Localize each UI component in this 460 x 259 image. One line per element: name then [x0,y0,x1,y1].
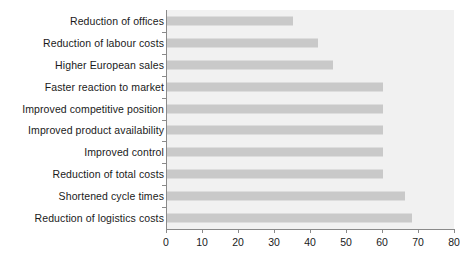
category-label: Improved product availability [28,124,164,136]
x-axis-tick [418,229,419,233]
x-axis-tick-label: 20 [232,236,244,248]
bar [167,148,383,157]
x-axis-tick [310,229,311,233]
category-label: Reduction of labour costs [43,37,164,49]
x-axis-tick-label: 60 [376,236,388,248]
category-label: Reduction of logistics costs [35,212,164,224]
y-axis-tick [162,185,166,186]
x-axis-tick [346,229,347,233]
x-axis-tick [382,229,383,233]
y-axis-tick [162,163,166,164]
bar [167,38,318,47]
bar [167,16,293,25]
category-label: Reduction of offices [70,15,164,27]
bar-track [167,207,455,229]
bar-rows: Reduction of officesReduction of labour … [0,10,460,229]
bar-track [167,32,455,54]
category-label: Higher European sales [55,59,164,71]
bar [167,213,412,222]
category-label: Shortened cycle times [59,190,164,202]
bar-track [167,119,455,141]
y-axis-tick [162,120,166,121]
category-label: Reduction of total costs [52,168,164,180]
bar [167,192,405,201]
x-axis-tick-label: 10 [196,236,208,248]
y-axis-tick [162,207,166,208]
x-axis-tick-label: 40 [304,236,316,248]
x-axis-tick [274,229,275,233]
y-axis-tick [162,98,166,99]
x-axis-tick [166,229,167,233]
bar-track [167,76,455,98]
bar-track [167,98,455,120]
bar-row: Reduction of total costs [0,163,460,185]
bar-track [167,10,455,32]
bar [167,104,383,113]
x-axis-tick-label: 50 [340,236,352,248]
y-axis-tick [162,32,166,33]
x-axis-tick-label: 30 [268,236,280,248]
bar [167,170,383,179]
bar-row: Reduction of offices [0,10,460,32]
bar [167,126,383,135]
bar-row: Improved control [0,141,460,163]
bar-row: Higher European sales [0,54,460,76]
category-label: Improved competitive position [22,103,164,115]
bar-track [167,185,455,207]
bar-track [167,54,455,76]
horizontal-bar-chart: Reduction of officesReduction of labour … [0,0,460,259]
bar-track [167,141,455,163]
category-label: Improved control [84,146,164,158]
category-label: Faster reaction to market [45,81,164,93]
x-axis-tick-label: 0 [163,236,169,248]
bar-row: Faster reaction to market [0,76,460,98]
x-axis-tick [454,229,455,233]
bar [167,82,383,91]
x-axis-tick [202,229,203,233]
x-axis-tick [238,229,239,233]
bar-row: Reduction of logistics costs [0,207,460,229]
chart-screenshot: Reduction of officesReduction of labour … [0,0,460,259]
bar-row: Improved product availability [0,119,460,141]
y-axis-tick [162,141,166,142]
x-axis-tick-label: 70 [412,236,424,248]
bar [167,60,333,69]
y-axis-tick [162,54,166,55]
bar-row: Reduction of labour costs [0,32,460,54]
y-axis-tick [162,76,166,77]
bar-row: Shortened cycle times [0,185,460,207]
x-axis-tick-label: 80 [448,236,460,248]
bar-track [167,163,455,185]
bar-row: Improved competitive position [0,98,460,120]
